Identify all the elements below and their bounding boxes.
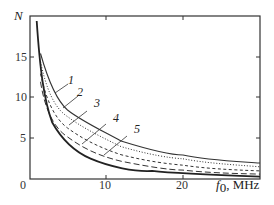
- curve-label-3: 3: [93, 96, 100, 110]
- y-tick-15: 15: [15, 50, 27, 64]
- plot-frame: [30, 16, 260, 179]
- x-axis-title: f0, MHz: [216, 177, 260, 195]
- y-tick-5: 5: [20, 131, 26, 145]
- x-tick-10: 10: [99, 178, 111, 192]
- curve-label-1: 1: [68, 73, 74, 87]
- y-ticks: [30, 57, 260, 138]
- x-ticks: [106, 16, 183, 179]
- curve-3: [41, 74, 261, 171]
- x-tick-20: 20: [176, 178, 188, 192]
- origin-label: 0: [20, 178, 26, 192]
- curve-label-5: 5: [134, 122, 140, 136]
- curve-label-4: 4: [113, 111, 119, 125]
- y-tick-10: 10: [15, 90, 27, 104]
- curve-5: [37, 21, 260, 177]
- curve-1: [41, 54, 261, 164]
- chart: 15 10 5 0 10 20 N f0, MHz 1 2 3 4 5: [0, 0, 274, 205]
- y-axis-title: N: [13, 8, 24, 23]
- curve-label-2: 2: [77, 85, 83, 99]
